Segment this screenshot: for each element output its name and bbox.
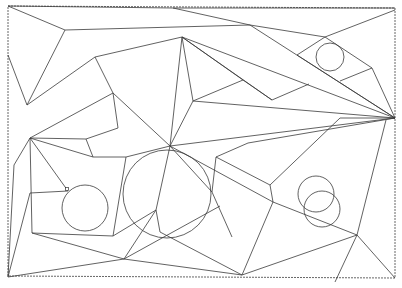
line-segment bbox=[124, 210, 156, 259]
line-segment bbox=[30, 191, 68, 193]
line-segment bbox=[325, 10, 395, 37]
line-segment bbox=[248, 118, 395, 143]
line-segment bbox=[216, 143, 248, 157]
line-segment bbox=[32, 233, 113, 236]
line-segment bbox=[170, 146, 212, 192]
line-segment bbox=[27, 30, 65, 105]
line-segment bbox=[124, 259, 242, 275]
line-segment bbox=[30, 138, 86, 139]
circle-shape bbox=[123, 150, 211, 238]
vertex-markers bbox=[66, 188, 69, 191]
circle-shape bbox=[316, 43, 344, 71]
line-segment bbox=[325, 37, 372, 68]
geometric-line-diagram bbox=[0, 0, 402, 288]
circle-shape bbox=[62, 185, 108, 231]
line-segment bbox=[8, 6, 65, 30]
line-segment bbox=[272, 84, 309, 100]
vertex-marker bbox=[66, 188, 69, 191]
line-segment bbox=[8, 165, 14, 277]
line-segment bbox=[273, 202, 357, 235]
line-segment bbox=[182, 37, 193, 101]
line-segment bbox=[30, 93, 113, 138]
line-segment bbox=[156, 146, 170, 210]
line-segment bbox=[86, 139, 93, 157]
line-segment bbox=[95, 37, 182, 57]
line-segment bbox=[242, 235, 357, 275]
line-segment bbox=[27, 57, 95, 105]
circle-shape bbox=[298, 176, 334, 212]
line-segment bbox=[124, 206, 220, 259]
line-segment bbox=[182, 37, 243, 80]
line-segment bbox=[30, 138, 68, 191]
line-segment bbox=[95, 57, 113, 93]
line-segment bbox=[30, 138, 93, 157]
line-segment bbox=[250, 25, 325, 37]
line-segment bbox=[8, 193, 30, 277]
line-segment bbox=[170, 101, 193, 146]
line-segment bbox=[30, 138, 32, 233]
line-segment bbox=[170, 118, 395, 146]
line-segment bbox=[8, 259, 124, 277]
line-segment bbox=[113, 93, 170, 146]
line-segment bbox=[335, 235, 357, 282]
line-segment bbox=[340, 68, 372, 81]
line-segment bbox=[242, 202, 273, 275]
line-segment bbox=[113, 93, 118, 128]
line-segment bbox=[212, 192, 232, 237]
line-segment bbox=[86, 128, 118, 139]
line-segment bbox=[357, 120, 386, 235]
line-segment bbox=[113, 210, 156, 236]
diagram-drawing-area bbox=[0, 0, 402, 288]
line-segment bbox=[270, 185, 273, 202]
line-segment bbox=[216, 157, 270, 185]
circles bbox=[62, 43, 344, 238]
line-segment bbox=[357, 235, 395, 278]
line-segment bbox=[8, 55, 27, 105]
line-segment bbox=[212, 157, 216, 192]
line-segment bbox=[65, 25, 250, 30]
line-segment bbox=[170, 37, 182, 146]
line-segment bbox=[156, 210, 160, 232]
line-segment bbox=[173, 8, 250, 25]
line-segment bbox=[113, 157, 126, 236]
line-segment bbox=[193, 80, 243, 101]
line-segments bbox=[8, 6, 395, 282]
line-segment bbox=[160, 232, 242, 275]
line-segment bbox=[243, 80, 272, 100]
line-segment bbox=[182, 37, 395, 118]
line-segment bbox=[14, 138, 30, 165]
line-segment bbox=[193, 101, 395, 118]
line-segment bbox=[32, 233, 124, 259]
line-segment bbox=[270, 118, 340, 185]
line-segment bbox=[126, 146, 170, 157]
